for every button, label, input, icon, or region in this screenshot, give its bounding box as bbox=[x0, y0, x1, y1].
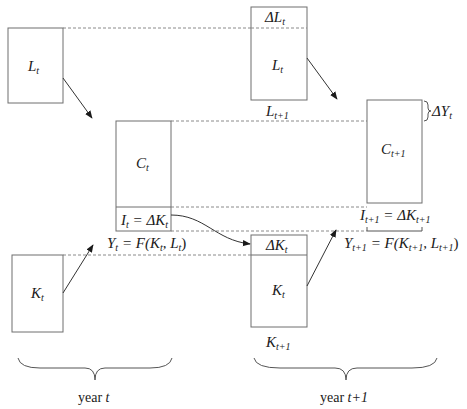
delta-output-label: ΔYt bbox=[431, 103, 452, 121]
arrow-labor-to-consumption-t1 bbox=[307, 58, 337, 99]
arrow-capital-to-output-t bbox=[63, 245, 93, 293]
investment-bracket-t1 bbox=[367, 227, 422, 231]
svg-text:ΔKt: ΔKt bbox=[265, 237, 288, 255]
capital-next-label: Kt+1 bbox=[265, 334, 291, 352]
arrow-capital-to-output-t1 bbox=[307, 230, 336, 286]
labor-next-label: Lt+1 bbox=[265, 103, 289, 121]
consumption-box-t: Ct It = ΔKt bbox=[116, 121, 171, 231]
delta-output-brace bbox=[424, 101, 431, 121]
growth-accounting-diagram: Lt Ct It = ΔKt Yt = F(Kt, Lt) Kt ΔLt Lt … bbox=[0, 0, 467, 409]
labor-box-t: Lt bbox=[8, 28, 63, 103]
labor-symbol: L bbox=[27, 58, 36, 74]
labor-box-t1: ΔLt Lt bbox=[251, 7, 307, 100]
investment-label-t1: It+1 = ΔKt+1 bbox=[359, 207, 431, 225]
year-t-brace bbox=[18, 358, 172, 380]
arrow-labor-to-consumption-t bbox=[63, 78, 92, 118]
year-t-label: year t bbox=[78, 390, 111, 405]
delta-labor-label: ΔL bbox=[264, 9, 282, 25]
delta-capital-label: ΔK bbox=[265, 237, 286, 253]
capital-box-t1: ΔKt Kt bbox=[251, 235, 307, 327]
output-equation-t: Yt = F(Kt, Lt) bbox=[107, 235, 186, 253]
consumption-box-t1: Ct+1 bbox=[367, 100, 422, 203]
output-equation-t1: Yt+1 = F(Kt+1, Lt+1) bbox=[344, 235, 459, 253]
svg-text:ΔLt: ΔLt bbox=[264, 9, 285, 27]
year-t1-label: year t+1 bbox=[320, 390, 368, 405]
year-t1-brace bbox=[254, 358, 437, 380]
capital-box-t: Kt bbox=[12, 255, 63, 332]
